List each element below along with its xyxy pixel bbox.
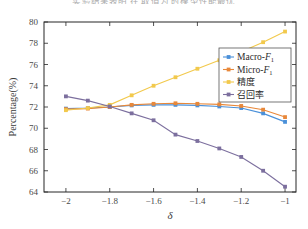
data-point-marker [195,102,199,106]
data-point-marker [261,169,265,173]
data-point-marker [261,111,265,115]
figure-container: 实验结果表明 在 取值为 时模型性能最优 Percentage(%) δ 646… [0,0,308,229]
x-tick-label: −1 [280,196,290,206]
data-point-marker [174,101,178,105]
y-tick-label: 78 [29,38,39,48]
legend-label: 精度 [237,76,255,87]
x-axis-label: δ [167,209,173,221]
legend-label: Macro-F1 [237,52,274,63]
y-tick-label: 76 [29,60,39,70]
x-tick-label: −1.4 [189,196,206,206]
data-point-marker [174,75,178,79]
data-point-marker [283,115,287,119]
data-point-marker [108,105,112,109]
data-point-marker [152,84,156,88]
chart-legend[interactable]: Macro-F1Micro-F1精度召回率 [219,48,291,102]
plot-background [44,22,296,192]
legend-label: 召回率 [237,89,264,100]
data-point-marker [130,103,134,107]
data-point-marker [64,94,68,98]
y-tick-label: 64 [29,187,39,197]
data-point-marker [239,104,243,108]
line-chart: Percentage(%) δ 646668707274767880 −2−1.… [0,0,308,229]
data-point-marker [261,108,265,112]
data-point-marker [195,67,199,71]
x-tick-label: −2 [61,196,71,206]
data-point-marker [283,120,287,124]
data-point-marker [152,118,156,122]
data-point-marker [152,102,156,106]
data-point-marker [130,93,134,97]
data-point-marker [261,40,265,44]
data-point-marker [217,102,221,106]
legend-marker-swatch [227,80,231,84]
y-tick-label: 68 [29,145,39,155]
y-tick-label: 74 [29,81,39,91]
y-tick-label: 72 [29,102,38,112]
x-tick-label: −1.6 [145,196,162,206]
data-point-marker [86,99,90,103]
data-point-marker [86,106,90,110]
data-point-marker [217,147,221,151]
data-point-marker [64,108,68,112]
data-point-marker [195,139,199,143]
y-axis-label: Percentage(%) [7,78,19,137]
legend-marker-swatch [227,55,231,59]
y-tick-label: 70 [29,123,39,133]
legend-label: Micro-F1 [237,65,272,76]
legend-marker-swatch [227,93,231,97]
data-point-marker [283,30,287,34]
data-point-marker [283,185,287,189]
x-tick-label: −1.2 [233,196,249,206]
legend-marker-swatch [227,68,231,72]
x-tick-label: −1.8 [102,196,119,206]
data-point-marker [239,155,243,159]
y-tick-label: 66 [29,166,39,176]
data-point-marker [174,133,178,137]
y-tick-label: 80 [29,17,39,27]
data-point-marker [130,111,134,115]
